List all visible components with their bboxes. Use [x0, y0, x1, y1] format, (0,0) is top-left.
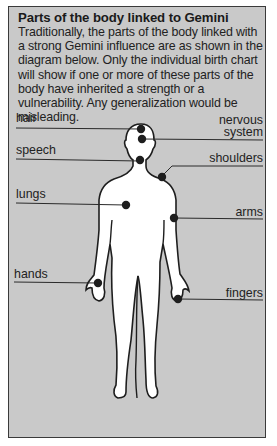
shoulders-marker	[158, 173, 166, 181]
body-silhouette	[86, 124, 189, 398]
speech-marker	[136, 156, 144, 164]
label-fingers: fingers	[226, 287, 263, 300]
nervous-system-leader-line	[142, 139, 263, 140]
body-diagram	[0, 0, 277, 446]
label-lungs: lungs	[16, 188, 46, 201]
arms-marker	[170, 214, 178, 222]
hair-leader-line	[16, 128, 141, 129]
hands-marker	[94, 279, 102, 287]
label-hair: hair	[16, 112, 37, 125]
hands-leader-line	[14, 282, 97, 283]
label-shoulders: shoulders	[209, 152, 263, 165]
lungs-marker	[122, 201, 130, 209]
fingers-marker	[174, 295, 182, 303]
label-nervous-system-line2: system	[224, 126, 263, 139]
label-arms: arms	[235, 206, 263, 219]
label-speech: speech	[16, 144, 56, 157]
speech-leader-line	[16, 159, 140, 161]
nervous-system-marker	[138, 135, 146, 143]
label-hands: hands	[14, 268, 48, 281]
shoulders-leader-line	[162, 166, 263, 176]
hair-marker	[137, 125, 145, 133]
